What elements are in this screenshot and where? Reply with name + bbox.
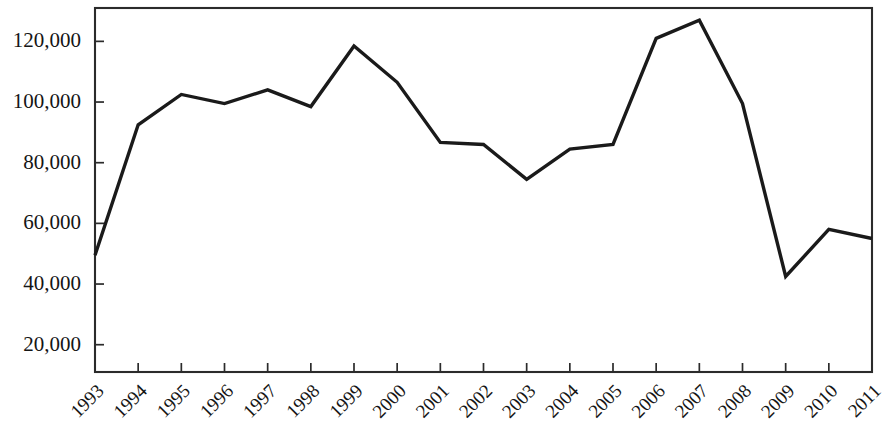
y-axis-tick-label: 60,000 — [23, 210, 81, 234]
line-chart: 20,00040,00060,00080,000100,000120,000 1… — [0, 0, 887, 433]
y-axis-tick-label: 100,000 — [13, 89, 81, 113]
y-axis-tick-label: 120,000 — [13, 28, 81, 52]
y-axis-tick-label: 20,000 — [23, 332, 81, 356]
y-axis-tick-label: 80,000 — [23, 150, 81, 174]
chart-container: 20,00040,00060,00080,000100,000120,000 1… — [0, 0, 887, 433]
y-axis-tick-label: 40,000 — [23, 271, 81, 295]
chart-background — [0, 0, 887, 433]
